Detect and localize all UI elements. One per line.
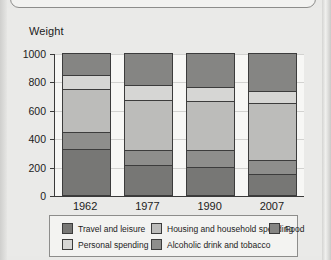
y-axis-label: Weight bbox=[29, 25, 64, 37]
legend-item-travel-and-leisure[interactable]: Travel and leisure bbox=[62, 223, 145, 234]
x-tick-label-1962: 1962 bbox=[55, 200, 115, 212]
bar-segment-food[interactable] bbox=[248, 53, 297, 92]
legend-swatch-icon bbox=[151, 223, 162, 234]
bar-segment-housing-and-household-spending[interactable] bbox=[124, 100, 173, 151]
bar-segment-housing-and-household-spending[interactable] bbox=[186, 101, 235, 151]
chart-figure: Weight 02004006008001000 196219771990200… bbox=[7, 8, 322, 256]
bar-segment-travel-and-leisure[interactable] bbox=[186, 167, 235, 196]
y-tick-mark bbox=[50, 196, 55, 197]
x-tick-label-2007: 2007 bbox=[242, 200, 302, 212]
legend-swatch-icon bbox=[62, 239, 73, 250]
legend-item-personal-spending[interactable]: Personal spending bbox=[62, 239, 148, 250]
bar-segment-housing-and-household-spending[interactable] bbox=[248, 103, 297, 161]
y-tick-label: 600 bbox=[12, 105, 46, 117]
bar-segment-personal-spending[interactable] bbox=[124, 85, 173, 101]
bar-segment-travel-and-leisure[interactable] bbox=[62, 149, 111, 196]
page-right-edge bbox=[322, 0, 331, 260]
chart-legend: Travel and leisureHousing and household … bbox=[49, 215, 298, 257]
legend-label: Personal spending bbox=[78, 240, 148, 250]
y-tick-label: 200 bbox=[12, 162, 46, 174]
y-tick-label: 1000 bbox=[12, 48, 46, 60]
bar-segment-alcoholic-drink-and-tobacco[interactable] bbox=[124, 150, 173, 167]
y-tick-label: 0 bbox=[12, 190, 46, 202]
plot-area: 02004006008001000 bbox=[54, 54, 304, 197]
bar-segment-food[interactable] bbox=[186, 53, 235, 88]
bar-segment-alcoholic-drink-and-tobacco[interactable] bbox=[248, 160, 297, 175]
x-tick-label-1990: 1990 bbox=[180, 200, 240, 212]
x-tick-label-1977: 1977 bbox=[117, 200, 177, 212]
legend-swatch-icon bbox=[151, 239, 162, 250]
y-tick-label: 800 bbox=[12, 76, 46, 88]
bar-segment-alcoholic-drink-and-tobacco[interactable] bbox=[186, 150, 235, 167]
screenshot-page: Weight 02004006008001000 196219771990200… bbox=[0, 0, 331, 260]
legend-item-food[interactable]: Food bbox=[269, 223, 304, 234]
legend-label: Travel and leisure bbox=[78, 224, 145, 234]
bar-group bbox=[55, 54, 304, 196]
top-rounded-box bbox=[10, 0, 316, 8]
bar-segment-personal-spending[interactable] bbox=[62, 75, 111, 90]
legend-label: Food bbox=[285, 224, 304, 234]
y-tick-label: 400 bbox=[12, 133, 46, 145]
page-left-edge bbox=[0, 0, 7, 260]
legend-swatch-icon bbox=[269, 223, 280, 234]
bar-segment-travel-and-leisure[interactable] bbox=[248, 174, 297, 196]
legend-item-alcoholic-drink-and-tobacco[interactable]: Alcoholic drink and tobacco bbox=[151, 239, 270, 250]
bar-segment-housing-and-household-spending[interactable] bbox=[62, 89, 111, 133]
bar-segment-food[interactable] bbox=[124, 53, 173, 86]
bar-segment-personal-spending[interactable] bbox=[186, 87, 235, 102]
bar-segment-travel-and-leisure[interactable] bbox=[124, 165, 173, 196]
legend-label: Alcoholic drink and tobacco bbox=[167, 240, 270, 250]
bar-segment-food[interactable] bbox=[62, 53, 111, 76]
bar-segment-alcoholic-drink-and-tobacco[interactable] bbox=[62, 132, 111, 150]
legend-swatch-icon bbox=[62, 223, 73, 234]
bar-segment-personal-spending[interactable] bbox=[248, 91, 297, 104]
